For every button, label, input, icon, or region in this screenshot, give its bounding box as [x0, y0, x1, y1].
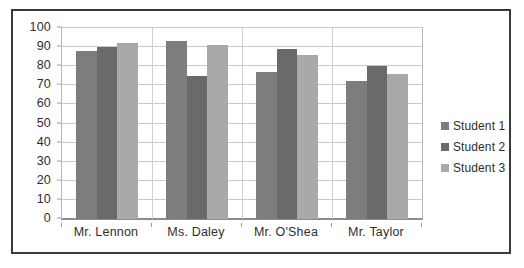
y-axis-tick-label: 40 — [37, 135, 51, 149]
bar-group — [166, 28, 227, 219]
bar-group — [346, 28, 407, 219]
y-axis-tick-label: 70 — [37, 77, 51, 91]
bar-chart: 0102030405060708090100 Mr. LennonMs. Dal… — [13, 11, 509, 252]
bar[interactable] — [97, 47, 117, 219]
x-axis-tick-label: Mr. Taylor — [331, 225, 421, 239]
legend-label: Student 3 — [453, 161, 505, 175]
legend-swatch-icon — [441, 164, 449, 172]
y-axis-tick-label: 30 — [37, 154, 51, 168]
y-axis: 0102030405060708090100 — [13, 27, 57, 220]
bar[interactable] — [256, 72, 276, 219]
bar-group — [76, 28, 137, 219]
y-axis-tick-label: 50 — [37, 116, 51, 130]
y-axis-tick-label: 0 — [44, 211, 51, 225]
bar[interactable] — [346, 81, 366, 219]
bar[interactable] — [387, 74, 407, 219]
y-axis-tick-label: 60 — [37, 96, 51, 110]
y-axis-tick-label: 90 — [37, 39, 51, 53]
bar[interactable] — [117, 43, 137, 219]
bar[interactable] — [277, 49, 297, 219]
legend-swatch-icon — [441, 122, 449, 130]
legend-swatch-icon — [441, 143, 449, 151]
x-axis-tick-mark — [421, 223, 422, 227]
legend-label: Student 2 — [453, 140, 505, 154]
legend-item[interactable]: Student 2 — [441, 136, 507, 157]
x-axis-tick-label: Mr. Lennon — [61, 225, 151, 239]
legend-item[interactable]: Student 1 — [441, 115, 507, 136]
chart-legend: Student 1Student 2Student 3 — [441, 115, 507, 178]
legend-item[interactable]: Student 3 — [441, 157, 507, 178]
x-axis: Mr. LennonMs. DaleyMr. O'SheaMr. Taylor — [61, 223, 423, 245]
category-separator — [242, 28, 243, 219]
y-axis-tick-label: 80 — [37, 58, 51, 72]
bar[interactable] — [297, 55, 317, 219]
y-axis-tick-label: 100 — [30, 20, 51, 34]
bar[interactable] — [166, 41, 186, 219]
plot-area — [61, 27, 423, 220]
bar[interactable] — [76, 51, 96, 219]
bar-group — [256, 28, 317, 219]
bar[interactable] — [187, 76, 207, 219]
y-axis-tick-label: 10 — [37, 192, 51, 206]
bar[interactable] — [207, 45, 227, 219]
legend-label: Student 1 — [453, 119, 505, 133]
chart-figure-frame: 0102030405060708090100 Mr. LennonMs. Dal… — [11, 9, 511, 254]
y-axis-tick-label: 20 — [37, 173, 51, 187]
bar[interactable] — [367, 66, 387, 219]
category-separator — [152, 28, 153, 219]
category-separator — [332, 28, 333, 219]
x-axis-tick-label: Mr. O'Shea — [241, 225, 331, 239]
x-axis-tick-label: Ms. Daley — [151, 225, 241, 239]
